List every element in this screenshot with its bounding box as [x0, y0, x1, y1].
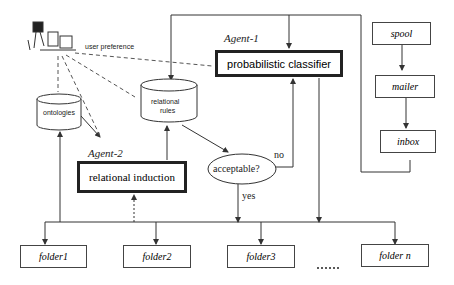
folder2-label: folder2 — [143, 251, 172, 262]
relational-induction-box: relational induction — [77, 161, 187, 193]
diagram-canvas: user preference Agent-1 probabilistic cl… — [0, 0, 454, 285]
user-pref-line-classifier — [75, 53, 212, 66]
folder3-label: folder3 — [247, 251, 276, 262]
agent-2-label: Agent-2 — [88, 148, 123, 159]
folder2-box: folder2 — [123, 245, 191, 268]
user-figure-icon — [28, 22, 76, 50]
rules-label-line2: rules — [160, 107, 175, 114]
inbox-box: inbox — [380, 130, 436, 153]
user-preference-label: user preference — [85, 43, 134, 50]
yes-label: yes — [242, 191, 255, 201]
ontologies-label: ontologies — [43, 109, 75, 116]
folder3-box: folder3 — [227, 245, 295, 268]
spool-box: spool — [372, 22, 431, 45]
classifier-label: probabilistic classifier — [227, 58, 331, 70]
mailer-label: mailer — [392, 81, 418, 92]
foldern-box: folder n — [361, 244, 429, 267]
rules-to-acceptable-arrow — [182, 125, 228, 152]
folder1-box: folder1 — [20, 245, 87, 268]
user-pref-line-rules — [66, 55, 135, 97]
ellipsis-dots — [317, 267, 339, 269]
rules-label-line1: relational — [151, 98, 179, 105]
inbox-label: inbox — [397, 136, 419, 147]
foldern-label: folder n — [379, 250, 410, 261]
agent-1-label: Agent-1 — [224, 33, 259, 44]
no-label: no — [274, 150, 284, 160]
probabilistic-classifier-box: probabilistic classifier — [215, 50, 343, 77]
acceptable-label: acceptable? — [213, 164, 260, 174]
induction-label: relational induction — [89, 171, 175, 183]
folder1-label: folder1 — [39, 251, 68, 262]
spool-label: spool — [391, 28, 413, 39]
ontologies-to-induction-arrow — [81, 116, 100, 137]
mailer-box: mailer — [375, 75, 435, 98]
